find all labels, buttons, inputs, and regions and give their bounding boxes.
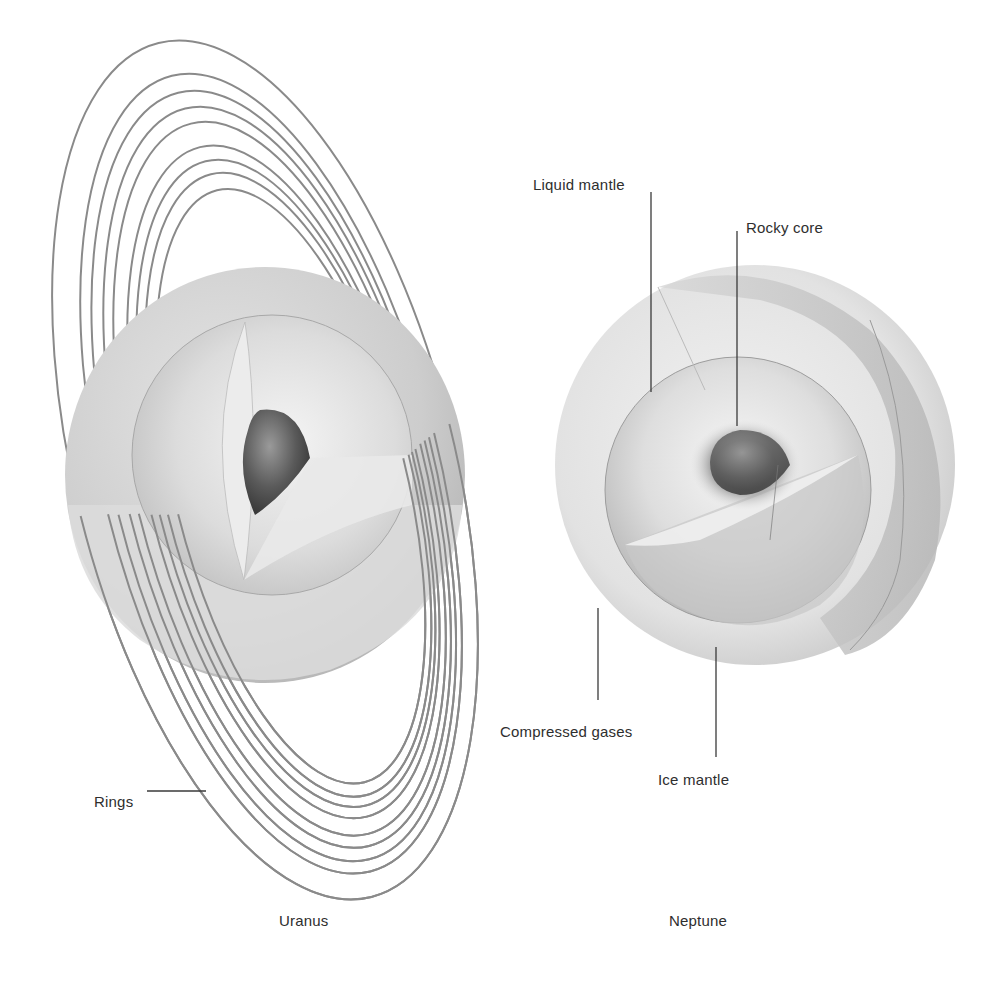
- uranus-planet-body: [65, 267, 465, 683]
- planet-interior-illustration: [0, 0, 1008, 991]
- neptune-caption: Neptune: [669, 912, 727, 929]
- compressed-gases-label: Compressed gases: [500, 723, 632, 740]
- rings-label: Rings: [94, 793, 133, 810]
- rocky-core-label: Rocky core: [746, 219, 823, 236]
- neptune-illustration: [555, 265, 955, 665]
- liquid-mantle-label: Liquid mantle: [533, 176, 625, 193]
- ice-mantle-label: Ice mantle: [658, 771, 729, 788]
- uranus-illustration: [0, 0, 556, 943]
- uranus-caption: Uranus: [279, 912, 329, 929]
